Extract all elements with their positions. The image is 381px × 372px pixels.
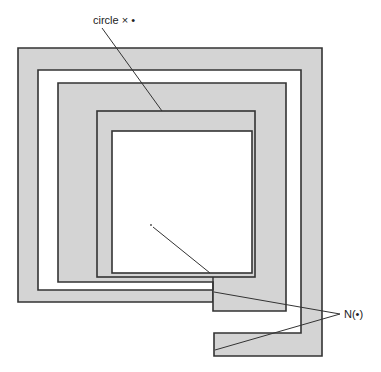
spiral-inner-hole [112, 131, 252, 273]
label-neighborhood: N(•) [344, 308, 363, 320]
spiral-diagram: circle × • N(•) [0, 0, 381, 372]
label-circle-times-point: circle × • [93, 14, 135, 26]
center-dot [150, 224, 152, 226]
